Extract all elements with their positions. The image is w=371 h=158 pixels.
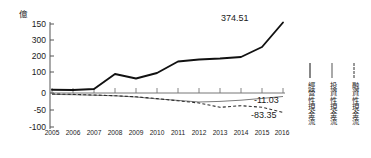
legend-item-operating-cash-flow: 經營性現金流 [300, 62, 320, 129]
legend-line-solid-icon [300, 62, 320, 78]
x-axis-tick-labels: 2005 2006 2007 2008 2009 2010 2011 2012 … [0, 129, 296, 141]
data-label-investing-cash-flow: -11.03 [254, 95, 279, 105]
x-tick-label: 2015 [255, 129, 270, 137]
legend-label: 融資性現金流 [350, 81, 358, 125]
series-line-operating-cash-flow [52, 23, 283, 91]
x-tick-label: 2005 [45, 129, 60, 137]
data-label-operating-cash-flow: 374.51 [221, 13, 249, 23]
chart-legend: 經營性現金流 投資性現金流 融資性現金流 [296, 0, 371, 158]
legend-line-dashed-icon [344, 62, 364, 78]
legend-label: 投資性現金流 [328, 81, 336, 125]
x-tick-label: 2006 [66, 129, 81, 137]
x-tick-label: 2012 [192, 129, 207, 137]
x-tick-label: 2014 [234, 129, 249, 137]
plot-area: 億 150 300 200 100 0 -50 -100 [0, 0, 296, 158]
x-tick-label: 2013 [213, 129, 228, 137]
series-line-investing-cash-flow [52, 94, 283, 102]
x-tick-label: 2007 [87, 129, 102, 137]
y-axis-ticks [50, 24, 54, 127]
x-tick-label: 2011 [171, 129, 185, 137]
legend-label: 經營性現金流 [306, 81, 314, 125]
legend-item-financing-cash-flow: 融資性現金流 [344, 62, 364, 129]
x-tick-label: 2009 [129, 129, 144, 137]
series-line-financing-cash-flow [52, 94, 283, 113]
x-tick-label: 2010 [150, 129, 165, 137]
x-tick-label: 2008 [108, 129, 123, 137]
data-label-financing-cash-flow: -83.35 [251, 110, 277, 120]
legend-line-thin-icon [322, 62, 342, 78]
legend-item-investing-cash-flow: 投資性現金流 [322, 62, 342, 129]
x-tick-label: 2016 [275, 129, 290, 137]
cash-flow-line-chart: 億 150 300 200 100 0 -50 -100 [0, 0, 371, 158]
